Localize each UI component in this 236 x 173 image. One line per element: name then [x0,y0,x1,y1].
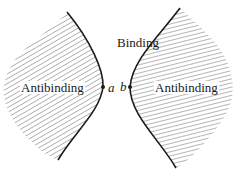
point-a-marker [101,85,105,89]
point-b-marker [128,85,132,89]
point-a-label: a [108,81,115,94]
right-antibinding-label: Antibinding [154,81,219,94]
left-antibinding-label: Antibinding [20,81,85,94]
point-b-label: b [120,80,127,93]
binding-label: Binding [116,36,160,49]
